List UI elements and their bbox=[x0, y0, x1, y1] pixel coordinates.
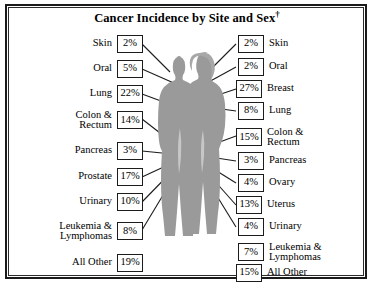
percent-box: 8% bbox=[117, 222, 143, 240]
row-right: 2% Oral bbox=[238, 58, 288, 75]
row-left: Leukemia & Lymphomas 8% bbox=[18, 219, 143, 243]
cancer-incidence-figure: Cancer Incidence by Site and Sex† bbox=[0, 0, 374, 288]
percent-box: 4% bbox=[238, 218, 264, 236]
percent-box: 10% bbox=[117, 193, 143, 211]
row-right: 4% Ovary bbox=[238, 174, 295, 191]
percent-box: 13% bbox=[236, 196, 262, 214]
site-label: Colon & Rectum bbox=[76, 110, 117, 131]
percent-box: 15% bbox=[236, 264, 262, 282]
row-right: 13% Uterus bbox=[236, 196, 295, 213]
site-label: Urinary bbox=[79, 196, 117, 207]
site-label: Colon & Rectum bbox=[262, 127, 303, 148]
site-label: Lung bbox=[264, 105, 291, 116]
row-right: 7% Leukemia & Lymphomas bbox=[238, 240, 322, 264]
row-left: Urinary 10% bbox=[30, 193, 143, 210]
site-label: Ovary bbox=[264, 177, 295, 188]
site-label: Breast bbox=[262, 83, 294, 94]
site-label: Skin bbox=[264, 38, 288, 49]
site-label: Urinary bbox=[264, 221, 302, 232]
site-label: Leukemia & Lymphomas bbox=[59, 221, 117, 242]
percent-box: 2% bbox=[238, 58, 264, 76]
figure-title: Cancer Incidence by Site and Sex† bbox=[0, 9, 374, 26]
site-label: Oral bbox=[93, 63, 117, 74]
row-right: 15% All Other bbox=[236, 264, 307, 281]
row-left: Lung 22% bbox=[30, 85, 143, 102]
row-right: 2% Skin bbox=[238, 35, 288, 52]
site-label: Uterus bbox=[262, 199, 295, 210]
site-label: Pancreas bbox=[264, 155, 306, 166]
percent-box: 8% bbox=[238, 102, 264, 120]
row-left: Skin 2% bbox=[30, 35, 143, 52]
row-right: 27% Breast bbox=[236, 80, 294, 97]
percent-box: 5% bbox=[117, 60, 143, 78]
percent-box: 4% bbox=[238, 174, 264, 192]
percent-box: 19% bbox=[117, 254, 143, 272]
percent-box: 14% bbox=[117, 111, 143, 129]
row-right: 15% Colon & Rectum bbox=[236, 125, 303, 149]
site-label: Pancreas bbox=[75, 145, 117, 156]
percent-box: 22% bbox=[117, 85, 143, 103]
row-left: Prostate 17% bbox=[30, 168, 143, 185]
site-label: Lung bbox=[90, 88, 117, 99]
row-right: 3% Pancreas bbox=[238, 152, 306, 169]
site-label: All Other bbox=[262, 267, 307, 278]
percent-box: 17% bbox=[117, 168, 143, 186]
site-label: Prostate bbox=[78, 171, 117, 182]
percent-box: 27% bbox=[236, 80, 262, 98]
row-right: 4% Urinary bbox=[238, 218, 302, 235]
percent-box: 3% bbox=[238, 152, 264, 170]
site-label: Leukemia & Lymphomas bbox=[264, 242, 322, 263]
site-label: All Other bbox=[72, 257, 117, 268]
row-left: Pancreas 3% bbox=[30, 142, 143, 159]
percent-box: 7% bbox=[238, 243, 264, 261]
percent-box: 15% bbox=[236, 128, 262, 146]
site-label: Skin bbox=[93, 38, 117, 49]
percent-box: 2% bbox=[238, 35, 264, 53]
dagger-footnote-marker: † bbox=[275, 9, 280, 19]
figure-title-text: Cancer Incidence by Site and Sex bbox=[94, 11, 275, 25]
row-left: Colon & Rectum 14% bbox=[22, 108, 143, 132]
site-label: Oral bbox=[264, 61, 288, 72]
row-left: Oral 5% bbox=[30, 60, 143, 77]
percent-box: 3% bbox=[117, 142, 143, 160]
row-right: 8% Lung bbox=[238, 102, 291, 119]
percent-box: 2% bbox=[117, 35, 143, 53]
row-left: All Other 19% bbox=[30, 254, 143, 271]
